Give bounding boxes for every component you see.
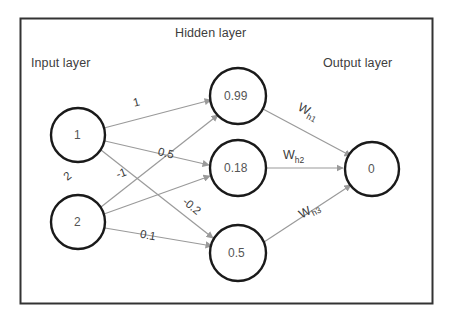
node-label-hidden-2: 0.18	[224, 161, 247, 175]
diagram-canvas: Input layer Hidden layer Output layer 1 …	[0, 0, 451, 321]
caption-hidden-layer: Hidden layer	[175, 26, 246, 40]
edge-weight-h2-base: W	[283, 148, 295, 162]
caption-output-layer: Output layer	[323, 56, 392, 70]
node-label-hidden-1: 0.99	[224, 89, 247, 103]
edge-weight-h2-o1: Wh2	[283, 148, 304, 165]
node-label-output-1: 0	[368, 162, 375, 176]
caption-input-layer: Input layer	[31, 56, 90, 70]
edge-weight-h2-sub: h2	[295, 155, 304, 165]
node-label-hidden-3: 0.5	[228, 246, 245, 260]
node-label-input-1: 1	[74, 128, 81, 142]
edge-weight-i2-h3: 0.1	[139, 228, 157, 243]
node-label-input-2: 2	[74, 215, 81, 229]
